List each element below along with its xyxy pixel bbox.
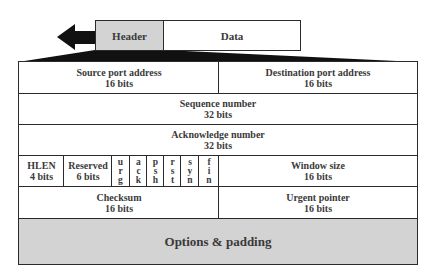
window-size-field: Window size 16 bits	[218, 155, 417, 186]
field-name: Destination port address	[266, 67, 371, 78]
field-name: Window size	[291, 160, 345, 171]
data-segment: Data	[163, 20, 301, 51]
ack-flag: a c k	[129, 155, 147, 186]
hlen-field: HLEN 4 bits	[19, 155, 64, 186]
field-bits: 4 bits	[30, 171, 53, 182]
field-name: Source port address	[76, 67, 161, 78]
acknowledge-number-field: Acknowledge number 32 bits	[19, 124, 417, 155]
options-padding-field: Options & padding	[19, 218, 417, 264]
fin-flag: f i n	[198, 155, 219, 186]
field-name: Urgent pointer	[286, 192, 350, 203]
field-name: Checksum	[96, 192, 141, 203]
tcp-header-table: Source port address 16 bits Destination …	[18, 61, 418, 265]
syn-flag: s y n	[180, 155, 199, 186]
header-label: Header	[112, 30, 147, 42]
field-name: Acknowledge number	[171, 129, 265, 140]
data-label: Data	[221, 30, 244, 42]
field-name: Options & padding	[165, 236, 272, 247]
arrow-left-icon	[57, 24, 96, 50]
field-bits: 32 bits	[204, 140, 232, 151]
reserved-field: Reserved 6 bits	[63, 155, 112, 186]
sequence-number-field: Sequence number 32 bits	[19, 93, 417, 124]
rst-flag: r s t	[163, 155, 181, 186]
field-name: Reserved	[68, 160, 107, 171]
field-bits: 16 bits	[304, 78, 332, 89]
field-bits: 6 bits	[76, 171, 99, 182]
field-bits: 16 bits	[105, 78, 133, 89]
header-segment: Header	[95, 20, 164, 51]
field-bits: 32 bits	[204, 109, 232, 120]
field-name: Sequence number	[180, 98, 256, 109]
psh-flag: p s h	[146, 155, 164, 186]
checksum-field: Checksum 16 bits	[19, 186, 219, 218]
urg-flag: u r g	[111, 155, 129, 186]
field-bits: 16 bits	[304, 203, 332, 214]
destination-port-field: Destination port address 16 bits	[218, 62, 417, 93]
field-bits: 16 bits	[105, 203, 133, 214]
urgent-pointer-field: Urgent pointer 16 bits	[218, 186, 417, 218]
field-name: HLEN	[27, 160, 55, 171]
source-port-field: Source port address 16 bits	[19, 62, 219, 93]
field-bits: 16 bits	[304, 171, 332, 182]
